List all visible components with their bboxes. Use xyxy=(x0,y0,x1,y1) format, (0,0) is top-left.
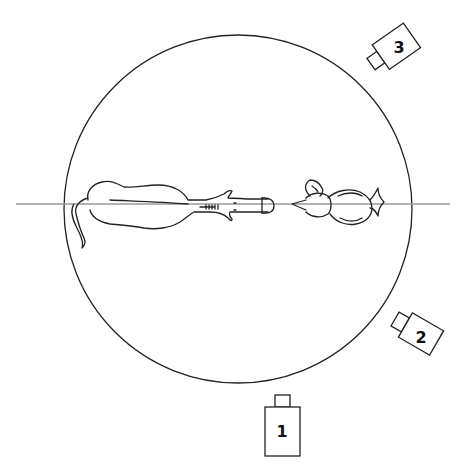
camera-3-label: 3 xyxy=(389,40,409,56)
camera-1-label: 1 xyxy=(272,424,292,440)
diagram-canvas xyxy=(0,0,474,474)
bird-icon xyxy=(292,180,384,225)
arena-circle xyxy=(64,35,412,383)
camera-2-label: 2 xyxy=(411,330,431,346)
horse-icon xyxy=(72,181,274,248)
